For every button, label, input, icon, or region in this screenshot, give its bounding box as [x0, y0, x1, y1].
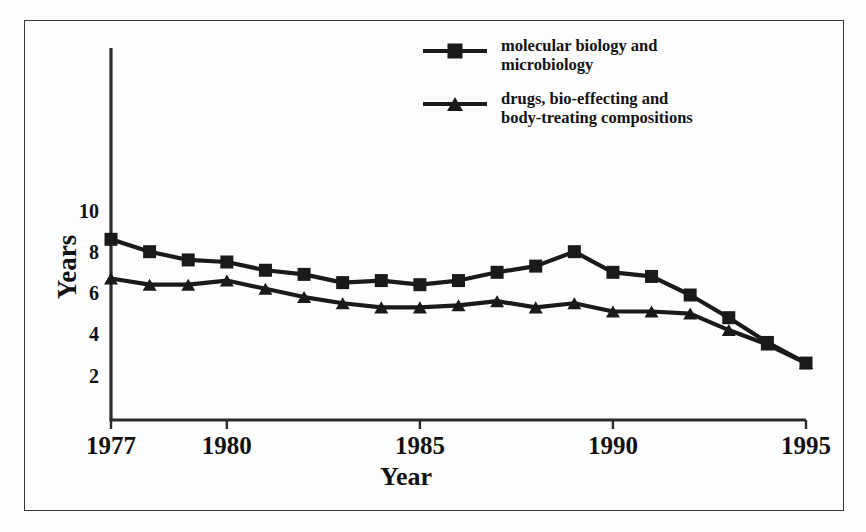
data-point-marker-square [491, 266, 504, 279]
data-point-marker-square [182, 253, 195, 266]
legend-markers [423, 44, 487, 111]
data-point-marker-square [684, 289, 697, 302]
y-tick-label: 10 [69, 200, 99, 223]
x-tick-label: 1995 [768, 432, 844, 460]
data-point-marker-square [220, 256, 233, 269]
data-point-marker-square [298, 268, 311, 281]
data-point-marker-square [606, 266, 619, 279]
y-tick-label: 4 [69, 323, 99, 346]
data-point-marker-square [452, 274, 465, 287]
data-point-marker-square [645, 270, 658, 283]
y-tick-label: 2 [69, 365, 99, 388]
chart-figure: Years Year 19771980198519901995246810 mo… [0, 0, 866, 532]
data-point-marker-square [448, 44, 463, 59]
data-point-marker-square [336, 276, 349, 289]
y-tick-label: 6 [69, 282, 99, 305]
x-axis-title: Year [380, 462, 432, 492]
x-tick-label: 1990 [575, 432, 651, 460]
data-point-marker-square [722, 311, 735, 324]
legend-label-line-1: molecular biology and [501, 36, 657, 55]
data-point-marker-square [568, 245, 581, 258]
legend-label-2: drugs, bio-effecting andbody-treating co… [501, 89, 693, 127]
x-tick-label: 1977 [73, 432, 149, 460]
data-point-marker-square [143, 245, 156, 258]
legend-label-1: molecular biology andmicrobiology [501, 36, 657, 74]
data-point-marker-square [375, 274, 388, 287]
series-group [104, 233, 813, 370]
x-tick-label: 1985 [382, 432, 458, 460]
y-axis-title: Years [52, 207, 83, 327]
y-tick-label: 8 [69, 241, 99, 264]
legend-label-line-1: drugs, bio-effecting and [501, 89, 693, 108]
data-point-marker-square [413, 278, 426, 291]
data-point-marker-square [105, 233, 118, 246]
data-point-marker-square [259, 264, 272, 277]
series-line [111, 279, 806, 364]
x-tick-label: 1980 [189, 432, 265, 460]
legend-label-line-2: microbiology [501, 55, 657, 74]
legend-label-line-2: body-treating compositions [501, 108, 693, 127]
data-point-marker-square [529, 260, 542, 273]
